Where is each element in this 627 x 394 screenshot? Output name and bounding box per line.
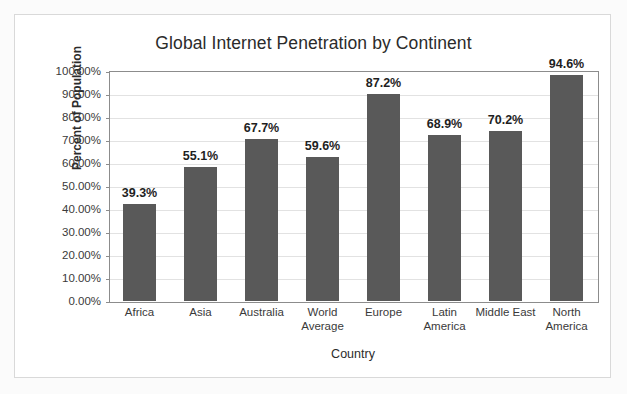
x-axis-tick-label: Middle East	[475, 305, 536, 333]
gridline	[110, 233, 598, 234]
plot-area	[109, 71, 599, 303]
y-axis-tick	[106, 210, 110, 211]
y-axis-tick-label: 70.00%	[62, 134, 101, 146]
chart-title: Global Internet Penetration by Continent	[15, 33, 612, 54]
x-axis-tick-label: Asia	[170, 305, 231, 333]
gridline	[110, 141, 598, 142]
chart-screenshot: Global Internet Penetration by Continent…	[0, 0, 627, 394]
x-axis-tick-label: WorldAverage	[292, 305, 353, 333]
y-axis-tick-label: 0.00%	[68, 295, 101, 307]
x-axis-tick-label-line: Middle East	[475, 305, 536, 319]
y-axis-tick	[106, 279, 110, 280]
gridlines	[110, 72, 598, 302]
y-axis-tick-label: 30.00%	[62, 226, 101, 238]
x-axis-title: Country	[109, 347, 597, 361]
x-axis-tick-label-line: Africa	[109, 305, 170, 319]
y-axis-tick-label: 80.00%	[62, 111, 101, 123]
y-axis-tick-labels: 100.00%90.00%80.00%70.00%60.00%50.00%40.…	[29, 71, 105, 301]
y-axis-tick-label: 60.00%	[62, 157, 101, 169]
gridline	[110, 95, 598, 96]
x-axis-tick-label-line: Latin	[414, 305, 475, 319]
x-axis-tick-label-line: North	[536, 305, 597, 319]
gridline	[110, 187, 598, 188]
chart-container: Global Internet Penetration by Continent…	[14, 14, 611, 378]
y-axis-tick-label: 90.00%	[62, 88, 101, 100]
gridline	[110, 118, 598, 119]
y-axis-tick	[106, 302, 110, 303]
gridline	[110, 279, 598, 280]
y-axis-tick	[106, 164, 110, 165]
x-axis-tick-label-line: World	[292, 305, 353, 319]
x-axis-tick-label: Africa	[109, 305, 170, 333]
gridline	[110, 164, 598, 165]
y-axis-tick	[106, 141, 110, 142]
gridline	[110, 256, 598, 257]
y-axis-tick	[106, 256, 110, 257]
y-axis-tick-label: 50.00%	[62, 180, 101, 192]
y-axis-tick	[106, 233, 110, 234]
x-axis-tick-labels: AfricaAsiaAustraliaWorldAverageEuropeLat…	[109, 305, 597, 333]
y-axis-tick	[106, 72, 110, 73]
y-axis-tick	[106, 95, 110, 96]
x-axis-tick-label: Europe	[353, 305, 414, 333]
y-axis-tick	[106, 187, 110, 188]
x-axis-tick-label-line: Asia	[170, 305, 231, 319]
x-axis-tick-label: Australia	[231, 305, 292, 333]
x-axis-tick-label-line: Average	[292, 319, 353, 333]
x-axis-tick-label-line: America	[414, 319, 475, 333]
y-axis-tick-label: 100.00%	[56, 65, 101, 77]
bar-value-label: 94.6%	[549, 57, 584, 71]
y-axis-tick-label: 40.00%	[62, 203, 101, 215]
gridline	[110, 210, 598, 211]
x-axis-tick-label-line: Europe	[353, 305, 414, 319]
y-axis-tick-label: 10.00%	[62, 272, 101, 284]
x-axis-tick-label: LatinAmerica	[414, 305, 475, 333]
x-axis-tick-label-line: Australia	[231, 305, 292, 319]
y-axis-tick	[106, 118, 110, 119]
y-axis-tick-label: 20.00%	[62, 249, 101, 261]
x-axis-tick-label: NorthAmerica	[536, 305, 597, 333]
x-axis-tick-label-line: America	[536, 319, 597, 333]
